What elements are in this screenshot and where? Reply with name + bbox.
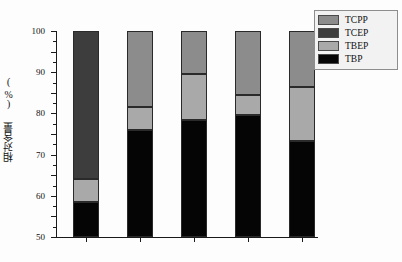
bar-segment-tcpp[interactable] [289,31,315,87]
y-tick-minor [53,41,56,42]
legend-item-tbep[interactable]: TBEP [318,40,394,52]
bar-segment-tbep[interactable] [289,87,315,142]
legend-item-tcpp[interactable]: TCPP [318,14,394,26]
y-tick-label: 50 [36,232,45,242]
chart-legend: TCPPTCEPTBEPTBP [314,10,398,70]
bar-segment-tbep[interactable] [73,179,99,202]
y-tick: 10 [51,216,56,217]
y-tick-minor [53,62,56,63]
bar-segment-tbep[interactable] [127,107,153,130]
y-tick-label: 60 [36,191,45,201]
bar-segment-tcpp[interactable] [181,31,207,74]
y-tick-label: 100 [32,26,46,36]
bar-segment-tbp[interactable] [127,130,153,237]
bar-segment-tbep[interactable] [181,74,207,119]
bar-stack[interactable] [235,31,261,237]
y-axis-title: 相对含量 (%) [2,60,18,180]
y-tick: 40 [51,155,56,156]
bar-segment-tbp[interactable] [73,202,99,237]
y-axis-line [56,31,57,238]
bar-segment-tbp[interactable] [235,115,261,237]
y-tick-label: 80 [36,108,45,118]
plot-area: 0102030405060708090100 [56,31,318,238]
legend-label: TBEP [345,41,368,51]
x-tick [86,237,87,242]
x-tick [248,237,249,242]
x-tick [140,237,141,242]
bar-segment-tbp[interactable] [289,141,315,237]
y-tick: 100 [51,31,56,32]
bar-stack[interactable] [181,31,207,237]
legend-label: TCPP [345,15,368,25]
y-tick: 80 [51,72,56,73]
bar-segment-tbp[interactable] [181,120,207,237]
y-tick: 0 [51,237,56,238]
legend-item-tcep[interactable]: TCEP [318,27,394,39]
y-tick-minor [53,124,56,125]
y-tick: 50 [51,134,56,135]
legend-item-tbp[interactable]: TBP [318,53,394,65]
legend-label: TBP [345,54,362,64]
y-tick-minor [53,83,56,84]
bar-stack[interactable] [73,31,99,237]
bar-stack[interactable] [127,31,153,237]
legend-swatch-tcep [318,28,339,38]
bar-segment-tbep[interactable] [235,95,261,116]
y-tick-label: 70 [36,150,45,160]
x-tick [302,237,303,242]
y-tick-label: 90 [36,67,45,77]
y-tick: 90 [51,52,56,53]
legend-swatch-tbp [318,54,339,64]
y-tick: 70 [51,93,56,94]
x-tick [194,237,195,242]
legend-swatch-tbep [318,41,339,51]
bar-segment-tcpp[interactable] [235,31,261,95]
chart-figure: 相对含量 (%) 0102030405060708090100 TCPPTCEP… [0,0,402,262]
y-tick-minor [53,206,56,207]
bar-segment-tcep[interactable] [73,31,99,179]
y-tick: 60 [51,113,56,114]
bar-segment-tcpp[interactable] [127,31,153,107]
legend-label: TCEP [345,28,368,38]
bar-stack[interactable] [289,31,315,237]
y-tick: 30 [51,175,56,176]
legend-swatch-tcpp [318,15,339,25]
y-tick: 20 [51,196,56,197]
y-tick-minor [53,186,56,187]
y-tick-minor [53,165,56,166]
y-tick-minor [53,227,56,228]
x-axis-line [56,237,318,238]
y-tick-minor [53,103,56,104]
y-tick-minor [53,144,56,145]
